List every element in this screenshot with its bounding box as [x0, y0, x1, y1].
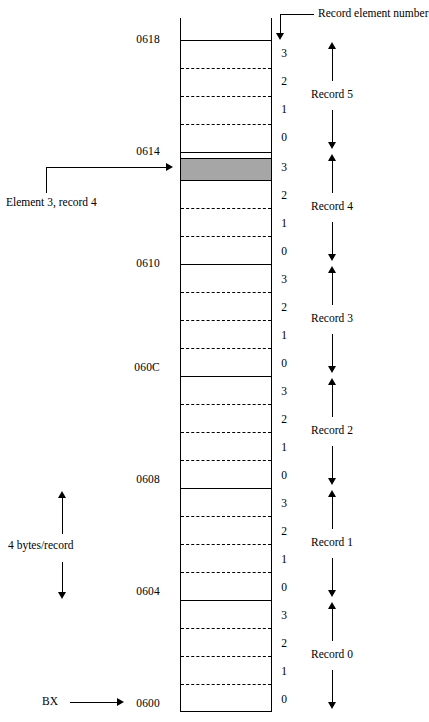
element-number: 3	[277, 609, 291, 621]
element-separator	[181, 208, 271, 209]
element-number: 2	[277, 301, 291, 313]
record-bracket-line-upper	[332, 384, 333, 417]
record-bracket-arrow-down	[328, 702, 336, 709]
record-element-number-label: Record element number	[318, 7, 429, 19]
record-bracket-line-upper	[332, 48, 333, 81]
element-number: 2	[277, 75, 291, 87]
record-separator	[180, 376, 272, 377]
record-bracket-line-lower	[332, 222, 333, 255]
record-bracket-line-lower	[332, 558, 333, 591]
record-label: Record 5	[296, 88, 368, 100]
element-separator	[181, 656, 271, 657]
bx-pointer-arrowhead	[117, 698, 124, 706]
element-separator	[181, 460, 271, 461]
element-number: 0	[277, 131, 291, 143]
element-callout-label: Element 3, record 4	[6, 196, 97, 208]
element-number: 1	[277, 553, 291, 565]
address-label: 0614	[96, 145, 160, 157]
element-separator	[181, 348, 271, 349]
record-bracket-line-lower	[332, 670, 333, 703]
element-number: 0	[277, 357, 291, 369]
element-separator	[181, 292, 271, 293]
element-number: 2	[277, 525, 291, 537]
record-bracket-arrow-down	[328, 254, 336, 261]
record-bracket-line-lower	[332, 446, 333, 479]
record-element-number-leader-horizontal	[280, 14, 314, 15]
record-label: Record 4	[296, 200, 368, 212]
element-separator	[181, 572, 271, 573]
record-separator	[180, 600, 272, 601]
element-separator	[181, 684, 271, 685]
column-rail-right-stub	[271, 18, 272, 40]
element-number: 0	[277, 245, 291, 257]
record-bracket-line-upper	[332, 160, 333, 193]
bx-pointer-line	[70, 702, 118, 703]
highlighted-element-cell	[181, 158, 271, 180]
record-label: Record 2	[296, 424, 368, 436]
address-label: 0604	[96, 585, 160, 597]
bytes-per-record-arrow-down	[58, 592, 66, 599]
element-number: 0	[277, 469, 291, 481]
element-separator	[181, 432, 271, 433]
element-number: 2	[277, 413, 291, 425]
element-callout-arrowhead	[166, 163, 173, 171]
element-separator	[181, 404, 271, 405]
element-number: 1	[277, 441, 291, 453]
record-bracket-arrow-down	[328, 142, 336, 149]
element-number: 1	[277, 103, 291, 115]
address-label: 060C	[96, 361, 160, 373]
bytes-per-record-line-lower	[62, 562, 63, 594]
element-number: 0	[277, 693, 291, 705]
element-number: 3	[277, 47, 291, 59]
element-separator	[181, 236, 271, 237]
element-number: 2	[277, 637, 291, 649]
element-number: 1	[277, 217, 291, 229]
element-number: 0	[277, 581, 291, 593]
element-separator	[181, 544, 271, 545]
bx-register-label: BX	[42, 695, 58, 707]
record-bracket-line-lower	[332, 110, 333, 143]
bytes-per-record-line-upper	[62, 497, 63, 534]
element-number: 1	[277, 665, 291, 677]
element-callout-leader-horizontal	[46, 167, 166, 168]
record-bracket-arrow-down	[328, 590, 336, 597]
address-label: 0610	[96, 257, 160, 269]
element-separator	[181, 628, 271, 629]
element-separator	[181, 96, 271, 97]
record-bracket-line-upper	[332, 608, 333, 641]
record-label: Record 3	[296, 312, 368, 324]
record-element-number-leader-vertical	[280, 14, 281, 34]
record-separator	[180, 152, 272, 153]
address-label: 0618	[96, 33, 160, 45]
column-rail-left-stub	[180, 18, 181, 40]
record-label: Record 0	[296, 648, 368, 660]
record-bracket-line-lower	[332, 334, 333, 367]
element-number: 3	[277, 273, 291, 285]
element-separator	[181, 124, 271, 125]
element-number: 3	[277, 161, 291, 173]
element-separator	[181, 68, 271, 69]
record-separator	[180, 488, 272, 489]
record-bracket-arrow-down	[328, 366, 336, 373]
element-number: 3	[277, 497, 291, 509]
highlight-top-edge	[180, 158, 272, 159]
address-label: 0608	[96, 473, 160, 485]
highlight-bottom-edge	[180, 180, 272, 181]
element-callout-leader-vertical	[46, 167, 47, 193]
bytes-per-record-label: 4 bytes/record	[8, 539, 73, 551]
record-label: Record 1	[296, 536, 368, 548]
element-number: 3	[277, 385, 291, 397]
address-label: 0600	[96, 697, 160, 709]
element-number: 2	[277, 189, 291, 201]
record-element-number-arrowhead	[276, 33, 284, 40]
record-bracket-line-upper	[332, 272, 333, 305]
element-number: 1	[277, 329, 291, 341]
record-bracket-arrow-down	[328, 478, 336, 485]
element-separator	[181, 516, 271, 517]
element-separator	[181, 320, 271, 321]
record-bracket-line-upper	[332, 496, 333, 529]
record-separator	[180, 264, 272, 265]
